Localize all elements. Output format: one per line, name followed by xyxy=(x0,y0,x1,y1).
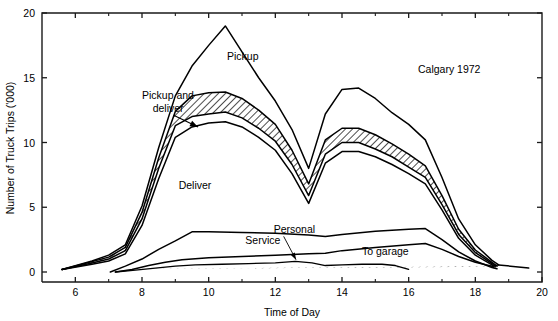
inline-series-labels: PickupDeliverServiceTo garagePersonalPic… xyxy=(142,50,409,257)
y-tick-label: 5 xyxy=(29,201,35,213)
x-tick-label: 12 xyxy=(269,286,281,298)
series-curve-service xyxy=(110,229,497,272)
x-tick-label: 10 xyxy=(203,286,215,298)
y-tick-label: 15 xyxy=(23,72,35,84)
series-label-deliver: Deliver xyxy=(179,179,212,191)
series-label-service: Service xyxy=(245,234,280,246)
chart-figure: 68101214161820 05101520 Time of Day Numb… xyxy=(0,0,558,321)
chart-annotation-calgary-1972: Calgary 1972 xyxy=(418,63,481,75)
y-axis-title: Number of Truck Trips ('000) xyxy=(4,82,16,215)
y-tick-label: 0 xyxy=(29,266,35,278)
series-label-pickup: Pickup xyxy=(227,50,259,62)
callout-text-pickup-and-deliver-line2: deliver xyxy=(153,102,184,114)
x-tick-label: 8 xyxy=(139,286,145,298)
x-axis-ticks xyxy=(75,13,542,282)
y-tick-label: 10 xyxy=(23,137,35,149)
series-label-personal: Personal xyxy=(274,223,315,235)
y-tick-label: 20 xyxy=(23,7,35,19)
truck-trips-line-chart: 68101214161820 05101520 Time of Day Numb… xyxy=(0,0,558,321)
x-axis-tick-labels: 68101214161820 xyxy=(72,286,548,298)
x-tick-label: 6 xyxy=(72,286,78,298)
callout-text-pickup-and-deliver-line1: Pickup and xyxy=(142,89,194,101)
x-tick-label: 20 xyxy=(536,286,548,298)
x-tick-label: 18 xyxy=(469,286,481,298)
series-label-to-garage: To garage xyxy=(362,245,409,257)
x-tick-label: 16 xyxy=(403,286,415,298)
x-axis-title: Time of Day xyxy=(264,306,321,318)
y-axis-tick-labels: 05101520 xyxy=(23,7,35,278)
x-tick-label: 14 xyxy=(336,286,348,298)
